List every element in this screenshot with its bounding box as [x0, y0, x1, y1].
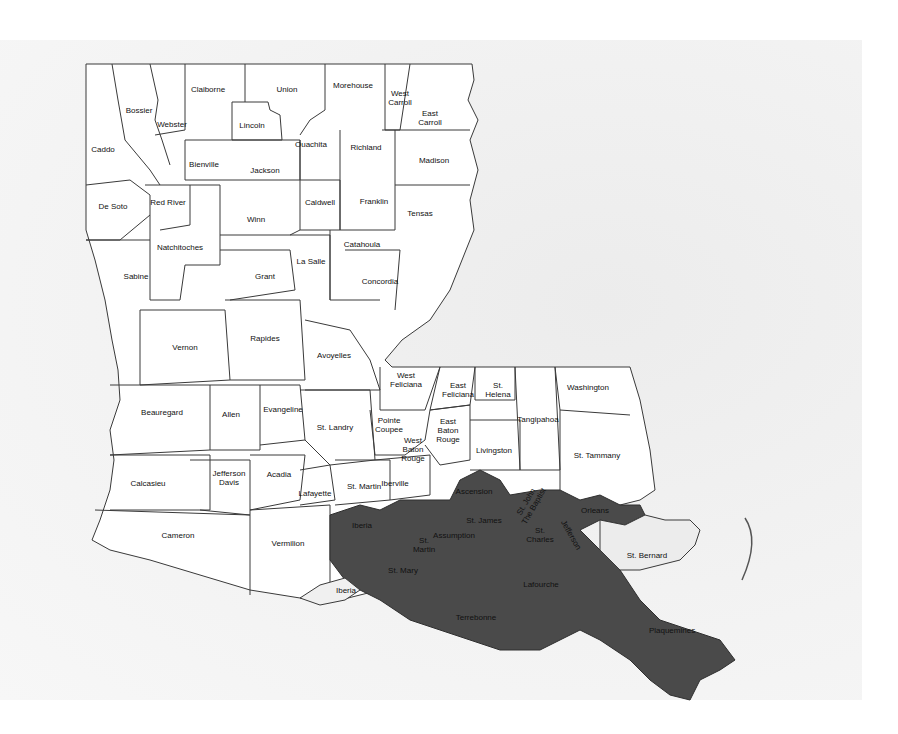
parish-label: Iberia: [352, 521, 372, 530]
parish-label: Caddo: [91, 145, 115, 154]
parish-label: Allen: [222, 410, 240, 419]
parish-label: Claiborne: [191, 85, 225, 94]
parish-label: La Salle: [297, 257, 326, 266]
parish-label: St. Martin: [413, 536, 435, 554]
parish-label: St. Martin: [347, 482, 381, 491]
parish-label: Ouachita: [295, 140, 327, 149]
parish-label: Franklin: [360, 197, 388, 206]
parish-label: East Carroll: [418, 109, 442, 127]
parish-label: Red River: [150, 198, 186, 207]
parish-label: Evangeline: [263, 405, 303, 414]
parish-label: Ascension: [456, 487, 493, 496]
parish-label: West Carroll: [388, 89, 412, 107]
parish-label: Beauregard: [141, 408, 183, 417]
parish-label: East Baton Rouge: [436, 417, 460, 444]
parish-label: Bossier: [126, 106, 153, 115]
parish-label: Iberville: [381, 479, 409, 488]
parish-label: Union: [277, 85, 298, 94]
parish-label: Morehouse: [333, 81, 373, 90]
parish-label: Concordia: [362, 277, 398, 286]
parish-label: Madison: [419, 156, 449, 165]
parish-label: Lafourche: [523, 580, 559, 589]
parish-label: St. Mary: [388, 566, 418, 575]
parish-label: St. Bernard: [627, 551, 667, 560]
parish-label: Winn: [247, 215, 265, 224]
st-bernard-area: [600, 515, 700, 570]
parish-label: Avoyelles: [317, 351, 351, 360]
parish-label: Orleans: [581, 506, 609, 515]
parish-label: Rapides: [250, 334, 279, 343]
parish-label: Acadia: [267, 470, 291, 479]
parish-label: Tangipahoa: [517, 415, 558, 424]
parish-label: St. Tammany: [574, 451, 621, 460]
parish-label: St. Charles: [526, 526, 554, 544]
parish-label: Vernon: [172, 343, 197, 352]
parish-label: Jefferson Davis: [213, 469, 246, 487]
parish-label: Terrebonne: [456, 613, 496, 622]
parish-label: St. James: [466, 516, 502, 525]
parish-label: Calcasieu: [130, 479, 165, 488]
parish-label: Plaquemines: [649, 626, 695, 635]
parish-label: Livingston: [476, 446, 512, 455]
parish-label: St. Helena: [485, 381, 510, 399]
parish-label: West Baton Rouge: [401, 436, 425, 463]
parish-label: Caldwell: [305, 198, 335, 207]
parish-label: Sabine: [124, 272, 149, 281]
parish-label: Webster: [157, 120, 187, 129]
parish-label: West Feliciana: [390, 371, 422, 389]
parish-label: Lafayette: [299, 489, 332, 498]
parish-label: Vermilion: [272, 539, 305, 548]
parish-label: Richland: [350, 143, 381, 152]
parish-label: Pointe Coupee: [375, 416, 403, 434]
parish-label: Cameron: [162, 531, 195, 540]
parish-label: East Feliciana: [442, 381, 474, 399]
parish-label: Iberia: [336, 586, 356, 595]
parish-label: Jackson: [250, 166, 279, 175]
chandeleur-islands: [742, 518, 752, 580]
parish-label: Grant: [255, 272, 275, 281]
parish-label: Tensas: [407, 209, 432, 218]
parish-label: Natchitoches: [157, 243, 203, 252]
parish-label: De Soto: [99, 202, 128, 211]
parish-label: Washington: [567, 383, 609, 392]
parish-label: Lincoln: [239, 121, 264, 130]
parish-label: St. Landry: [317, 423, 353, 432]
parish-label: Catahoula: [344, 240, 380, 249]
parish-label: Assumption: [433, 531, 475, 540]
parish-label: Bienville: [189, 160, 219, 169]
